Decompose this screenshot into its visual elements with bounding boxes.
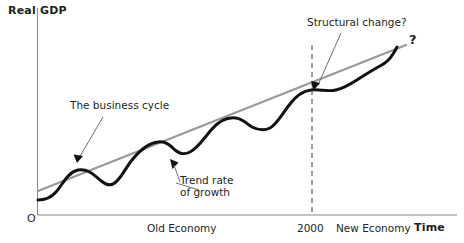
structural-change-leader [312, 33, 342, 91]
annotation-question-mark: ? [409, 32, 417, 47]
business-cycle-chart-svg [0, 0, 464, 243]
annotation-business-cycle: The business cycle [70, 99, 169, 111]
origin-label: O [27, 213, 36, 226]
annotation-trend-rate-line1: Trend rate [180, 174, 233, 186]
axes-group [38, 8, 458, 215]
x-tick-label-2000: 2000 [297, 222, 324, 234]
annotation-trend-rate-of-growth: Trend rateof growth [180, 174, 233, 199]
x-region-label-old-economy: Old Economy [147, 222, 217, 234]
x-axis-title: Time [414, 222, 445, 235]
business-cycle-leader [74, 117, 104, 163]
x-region-label-new-economy: New Economy [336, 222, 411, 234]
chart-figure: Real GDP Time O 2000 Old Economy New Eco… [0, 0, 464, 243]
trend-line [38, 45, 406, 191]
y-axis-title: Real GDP [8, 5, 52, 18]
annotation-structural-change: Structural change? [307, 16, 407, 28]
annotation-trend-rate-line2: of growth [180, 186, 230, 198]
